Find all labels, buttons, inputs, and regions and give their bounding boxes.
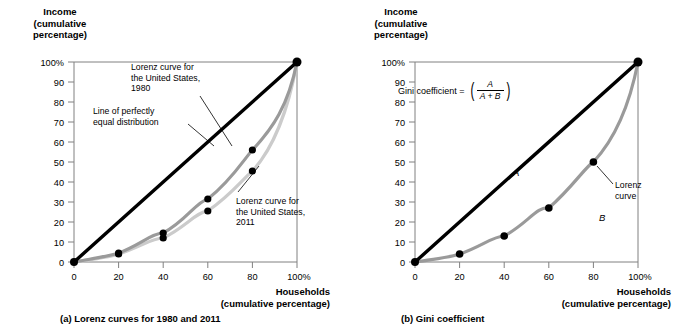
lorenz-curve-label: Lorenz curve (615, 180, 671, 201)
panel-a-leader-lines (188, 96, 259, 192)
svg-text:0: 0 (412, 272, 417, 282)
svg-text:80: 80 (588, 272, 598, 282)
svg-text:0: 0 (59, 258, 64, 268)
panel-b-caption: (b) Gini coefficient (401, 313, 484, 324)
svg-text:100%: 100% (41, 58, 65, 68)
gini-coefficient-formula: Gini coefficient = ( A A + B ) (398, 80, 512, 101)
panel-a-y-tick-labels: 100% 90 80 70 60 50 40 30 20 10 0 (41, 58, 65, 268)
panel-b-plot: 100% 90 80 70 60 50 40 30 20 10 0 0 20 4… (341, 0, 681, 334)
svg-text:0: 0 (400, 258, 405, 268)
svg-text:10: 10 (54, 238, 64, 248)
panel-b-gini-coefficient: Income (cumulative percentage) (341, 0, 681, 334)
panel-a-x-ticks (74, 262, 297, 268)
svg-text:100%: 100% (628, 272, 652, 282)
gini-formula-lead: Gini coefficient = (398, 86, 465, 96)
svg-text:70: 70 (395, 118, 405, 128)
gini-numerator: A (484, 80, 496, 89)
lorenz-2011-label: Lorenz curve for the United States, 2011 (236, 196, 334, 228)
svg-text:80: 80 (54, 98, 64, 108)
gini-fraction: A A + B (477, 80, 504, 101)
panel-a-caption: (a) Lorenz curves for 1980 and 2011 (60, 313, 221, 324)
svg-text:0: 0 (71, 272, 76, 282)
svg-text:30: 30 (395, 198, 405, 208)
equality-line-label: Line of perfectly equal distribution (93, 106, 188, 127)
panel-a-x-axis-title: Households (cumulative percentage) (140, 286, 330, 309)
svg-text:40: 40 (54, 178, 64, 188)
svg-text:70: 70 (54, 118, 64, 128)
svg-text:30: 30 (54, 198, 64, 208)
panel-a-y-ticks (68, 62, 74, 262)
svg-text:20: 20 (395, 218, 405, 228)
lorenz-1980-label: Lorenz curve for the United States, 1980 (131, 62, 227, 94)
gini-denominator: A + B (477, 92, 504, 101)
svg-text:10: 10 (395, 238, 405, 248)
panel-b-x-ticks (415, 262, 638, 268)
svg-text:20: 20 (54, 218, 64, 228)
svg-text:20: 20 (454, 272, 464, 282)
panel-b-leader-lines (597, 166, 613, 184)
lorenz-curve-figure: Income (cumulative percentage) (0, 0, 681, 334)
panel-b-x-tick-labels: 0 20 40 60 80 100% (412, 272, 651, 282)
svg-text:100%: 100% (382, 58, 406, 68)
panel-a-x-tick-labels: 0 20 40 60 80 100% (71, 272, 310, 282)
svg-text:100%: 100% (287, 272, 311, 282)
region-b-label: B (599, 212, 605, 223)
panel-a-plot: 100% 90 80 70 60 50 40 30 20 10 0 0 20 4… (0, 0, 340, 334)
svg-text:80: 80 (247, 272, 257, 282)
formula-close-paren: ) (506, 81, 510, 100)
svg-text:40: 40 (158, 272, 168, 282)
svg-text:50: 50 (54, 158, 64, 168)
region-a-label: A (513, 167, 519, 178)
svg-text:40: 40 (395, 178, 405, 188)
svg-text:90: 90 (54, 78, 64, 88)
svg-text:60: 60 (54, 138, 64, 148)
panel-b-x-axis-title: Households (cumulative percentage) (481, 286, 671, 309)
svg-text:60: 60 (544, 272, 554, 282)
svg-text:20: 20 (113, 272, 123, 282)
svg-text:60: 60 (203, 272, 213, 282)
svg-text:60: 60 (395, 138, 405, 148)
formula-open-paren: ( (470, 81, 474, 100)
panel-a-lorenz-curves: Income (cumulative percentage) (0, 0, 340, 334)
svg-text:50: 50 (395, 158, 405, 168)
svg-text:40: 40 (499, 272, 509, 282)
